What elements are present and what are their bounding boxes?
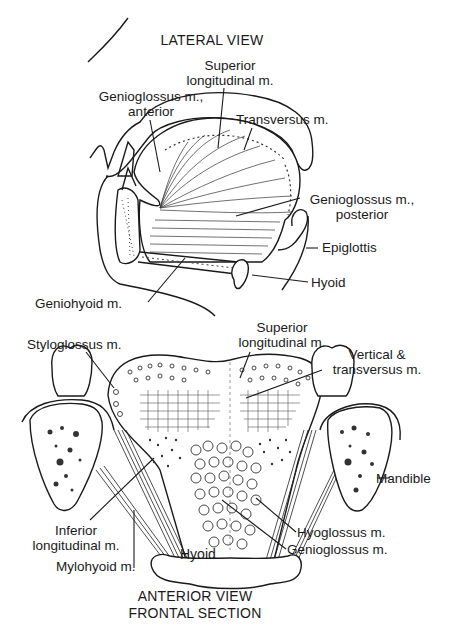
label-text: Transversus m. bbox=[236, 112, 329, 127]
label-genioglossus-anterior: Genioglossus m., anterior bbox=[96, 89, 206, 119]
anterior-view-title: ANTERIOR VIEW FRONTAL SECTION bbox=[120, 588, 270, 622]
anterior-view-title-line: ANTERIOR VIEW bbox=[120, 588, 270, 605]
label-inferior-longitudinal: Inferior longitudinal m. bbox=[26, 523, 126, 553]
label-mylohyoid: Mylohyoid m. bbox=[56, 559, 136, 574]
label-line: longitudinal m. bbox=[180, 73, 280, 88]
label-text: Mylohyoid m. bbox=[56, 559, 136, 574]
label-text: Hyoid bbox=[311, 275, 346, 290]
label-genioglossus-posterior: Genioglossus m., posterior bbox=[302, 192, 422, 222]
label-line: Superior bbox=[232, 320, 332, 335]
label-geniohyoid: Geniohyoid m. bbox=[35, 296, 122, 311]
label-text: Genioglossus m. bbox=[287, 542, 388, 557]
label-text: Styloglossus m. bbox=[27, 337, 122, 352]
label-superior-longitudinal-anterior: Superior longitudinal m. bbox=[232, 320, 332, 350]
label-line: longitudinal m. bbox=[232, 335, 332, 350]
lateral-view-title-text: LATERAL VIEW bbox=[161, 32, 264, 48]
label-mandible: Mandible bbox=[376, 471, 431, 486]
label-line: Vertical & bbox=[322, 347, 432, 362]
label-genioglossus: Genioglossus m. bbox=[287, 542, 388, 557]
label-hyoid-anterior: Hyoid bbox=[180, 547, 216, 562]
anterior-view-subtitle-line: FRONTAL SECTION bbox=[120, 605, 270, 622]
label-line: posterior bbox=[302, 207, 422, 222]
label-line: longitudinal m. bbox=[26, 538, 126, 553]
label-line: anterior bbox=[96, 104, 206, 119]
label-epiglottis: Epiglottis bbox=[322, 240, 377, 255]
label-text: Geniohyoid m. bbox=[35, 296, 122, 311]
label-transversus: Transversus m. bbox=[236, 112, 329, 127]
label-superior-longitudinal-lateral: Superior longitudinal m. bbox=[180, 58, 280, 88]
label-line: transversus m. bbox=[322, 362, 432, 377]
label-vertical-transversus: Vertical & transversus m. bbox=[322, 347, 432, 377]
label-line: Genioglossus m., bbox=[96, 89, 206, 104]
lateral-view-title: LATERAL VIEW bbox=[152, 32, 272, 49]
label-line: Genioglossus m., bbox=[302, 192, 422, 207]
label-hyoglossus: Hyoglossus m. bbox=[297, 525, 386, 540]
label-hyoid-lateral: Hyoid bbox=[311, 275, 346, 290]
label-text: Epiglottis bbox=[322, 240, 377, 255]
label-line: Superior bbox=[180, 58, 280, 73]
label-text: Hyoglossus m. bbox=[297, 525, 386, 540]
label-line: Inferior bbox=[26, 523, 126, 538]
label-text: Hyoid bbox=[180, 546, 216, 562]
label-text: Mandible bbox=[376, 471, 431, 486]
label-styloglossus: Styloglossus m. bbox=[27, 337, 122, 352]
